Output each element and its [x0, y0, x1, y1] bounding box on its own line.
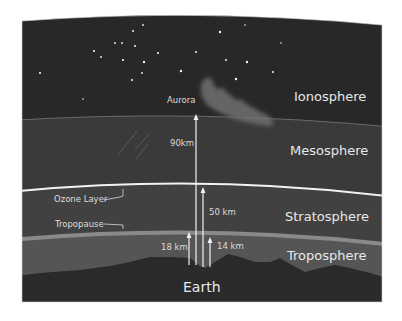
ionosphere-label: Ionosphere — [294, 89, 366, 104]
troposphere-label: Troposphere — [286, 248, 367, 263]
earth-label: Earth — [183, 279, 221, 295]
tropopause-label: Tropopause — [54, 219, 104, 229]
atmosphere-diagram: Ionosphere Mesosphere Stratosphere Tropo… — [0, 0, 402, 321]
stratosphere-label: Stratosphere — [285, 209, 369, 224]
ozone-layer-label: Ozone Layer — [54, 194, 108, 204]
mesosphere-label: Mesosphere — [290, 143, 368, 158]
altitude-50km-label: 50 km — [209, 207, 236, 217]
aurora-label: Aurora — [167, 95, 195, 105]
altitude-90km-label: 90km — [170, 138, 194, 148]
altitude-18km-label: 18 km — [161, 242, 188, 252]
altitude-14km-label: 14 km — [217, 241, 244, 251]
